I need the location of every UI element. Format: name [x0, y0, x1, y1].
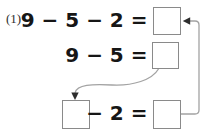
carry-down-arrow-line — [75, 69, 159, 93]
problem-number: (1) — [6, 11, 21, 27]
carry-down-arrowhead-icon — [71, 93, 78, 100]
line3-answer-box[interactable] — [153, 100, 181, 129]
line1-expression: 9 − 5 − 2 = — [21, 6, 148, 35]
feedback-arrow-line — [181, 21, 199, 114]
line1-answer-box[interactable] — [153, 7, 181, 35]
line3-expression: − 2 = — [86, 99, 148, 128]
line2-expression: 9 − 5 = — [65, 41, 148, 70]
feedback-arrowhead-icon — [183, 17, 190, 24]
worksheet: (1) 9 − 5 − 2 = 9 − 5 = − 2 = — [0, 0, 209, 137]
line2-answer-box[interactable] — [152, 42, 179, 69]
